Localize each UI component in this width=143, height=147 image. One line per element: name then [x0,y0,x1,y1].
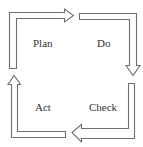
pdca-cycle-diagram: Plan Do Check Act [0,0,143,147]
do-label: Do [97,38,110,49]
cycle-arrows [0,0,143,147]
act-label: Act [35,102,51,113]
plan-label: Plan [33,38,53,49]
check-label: Check [89,102,117,113]
